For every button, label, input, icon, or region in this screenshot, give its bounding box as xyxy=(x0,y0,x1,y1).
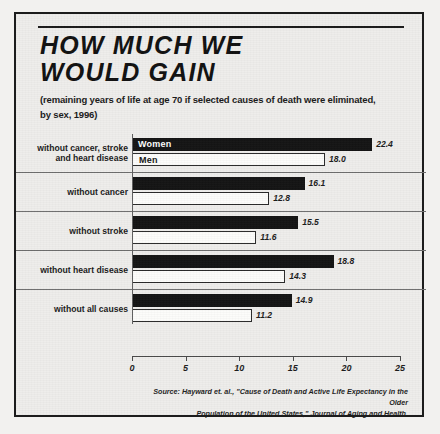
category-label-line: without cancer, stroke xyxy=(37,143,128,154)
x-axis-tick xyxy=(400,356,401,361)
x-axis-tick xyxy=(239,356,240,361)
chart-title: HOW MUCH WE WOULD GAIN xyxy=(40,32,400,86)
category-label: without stroke xyxy=(20,212,128,250)
x-axis-tick-label: 5 xyxy=(183,363,188,373)
x-axis-tick xyxy=(186,356,187,361)
bar-pair: 18.814.3 xyxy=(132,251,426,289)
chart-figure: HOW MUCH WE WOULD GAIN (remaining years … xyxy=(14,12,424,417)
chart-subtitle-line-2: by sex, 1996) xyxy=(40,109,97,120)
x-axis-tick-label: 0 xyxy=(129,363,134,373)
bar-men xyxy=(132,231,256,244)
bar-value-label: 15.5 xyxy=(302,217,319,227)
bar-row-men: 11.2 xyxy=(132,309,426,322)
bar-value-label: 22.4 xyxy=(376,139,393,149)
bar-row-women: 15.5 xyxy=(132,216,426,229)
bar-row-men: 11.6 xyxy=(132,231,426,244)
category-label: without heart disease xyxy=(20,251,128,289)
category-label-line: without heart disease xyxy=(40,265,128,276)
bar-women xyxy=(132,294,292,307)
category-label: without all causes xyxy=(20,290,128,328)
bar-value-label: 14.3 xyxy=(289,271,306,281)
chart-title-line-1: HOW MUCH WE xyxy=(40,32,400,59)
category-label-line: without stroke xyxy=(69,226,128,237)
x-axis-tick xyxy=(346,356,347,361)
bar-men xyxy=(132,309,252,322)
x-axis-line xyxy=(132,356,400,357)
bar-women xyxy=(132,177,305,190)
bar-row-women: 16.1 xyxy=(132,177,426,190)
zero-baseline xyxy=(132,134,133,324)
plot-area: without cancer, strokeand heart diseaseW… xyxy=(16,134,426,356)
source-line-2: Population of the United States," Journa… xyxy=(136,408,408,419)
bar-value-label: 14.9 xyxy=(296,295,313,305)
x-axis-tick-label: 15 xyxy=(288,363,298,373)
category-label-line: without cancer xyxy=(67,187,128,198)
bar-value-label: 11.2 xyxy=(256,310,272,320)
series-legend-label: Women xyxy=(138,139,171,149)
bar-value-label: 16.1 xyxy=(309,178,326,188)
bar-women: Women xyxy=(132,138,372,151)
bar-row-women: 14.9 xyxy=(132,294,426,307)
category-label-line: and heart disease xyxy=(55,153,128,164)
bar-group: without stroke15.511.6 xyxy=(16,212,426,251)
bar-men: Men xyxy=(132,153,325,166)
bar-men xyxy=(132,192,269,205)
bar-pair: 15.511.6 xyxy=(132,212,426,250)
category-label-line: without all causes xyxy=(54,304,128,315)
bar-men xyxy=(132,270,285,283)
category-label: without cancer xyxy=(20,173,128,211)
x-axis-tick xyxy=(132,356,133,361)
x-axis-tick-label: 25 xyxy=(395,363,405,373)
bar-value-label: 18.0 xyxy=(329,154,346,164)
bar-row-women: 18.8 xyxy=(132,255,426,268)
bar-women xyxy=(132,255,334,268)
title-rule xyxy=(38,26,404,28)
chart-title-line-2: WOULD GAIN xyxy=(40,59,400,86)
series-legend-label: Men xyxy=(139,155,158,165)
category-label: without cancer, strokeand heart disease xyxy=(20,134,128,172)
bar-pair: 14.911.2 xyxy=(132,290,426,328)
bar-pair: Women22.4Men18.0 xyxy=(132,134,426,172)
bar-group: without all causes14.911.2 xyxy=(16,290,426,328)
source-note: Source: Hayward et. al., "Cause of Death… xyxy=(136,386,408,419)
bar-value-label: 18.8 xyxy=(338,256,355,266)
chart-subtitle: (remaining years of life at age 70 if se… xyxy=(40,92,402,122)
x-axis: 0510152025 xyxy=(16,356,426,384)
bar-row-men: Men18.0 xyxy=(132,153,426,166)
bar-value-label: 11.6 xyxy=(260,232,276,242)
bar-row-men: 12.8 xyxy=(132,192,426,205)
x-axis-tick xyxy=(293,356,294,361)
bar-row-men: 14.3 xyxy=(132,270,426,283)
bar-pair: 16.112.8 xyxy=(132,173,426,211)
x-axis-tick-label: 20 xyxy=(341,363,351,373)
bar-group: without heart disease18.814.3 xyxy=(16,251,426,290)
bar-women xyxy=(132,216,298,229)
chart-subtitle-line-1: (remaining years of life at age 70 if se… xyxy=(40,94,376,105)
bar-row-women: Women22.4 xyxy=(132,138,426,151)
x-axis-tick-label: 10 xyxy=(234,363,244,373)
bar-group: without cancer16.112.8 xyxy=(16,173,426,212)
bar-value-label: 12.8 xyxy=(273,193,290,203)
bar-group: without cancer, strokeand heart diseaseW… xyxy=(16,134,426,173)
source-line-1: Source: Hayward et. al., "Cause of Death… xyxy=(136,386,408,408)
